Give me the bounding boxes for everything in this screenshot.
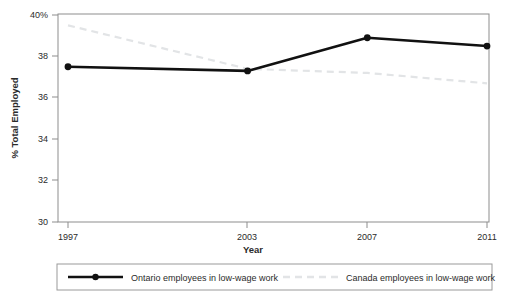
data-point-marker [484, 43, 491, 50]
y-tick-label-40: 40% [30, 10, 48, 20]
y-tick-label-34: 34 [38, 134, 48, 144]
low-wage-work-line-chart: 40% 38 36 34 32 30 % Total Employed 1997… [0, 0, 506, 297]
legend-label-canada: Canada employees in low-wage work [346, 273, 496, 283]
y-tick-label-38: 38 [38, 51, 48, 61]
data-point-marker [244, 67, 251, 74]
x-tick-label-2011: 2011 [477, 232, 496, 242]
y-axis-title: % Total Employed [9, 77, 20, 158]
data-point-marker [364, 34, 371, 41]
x-tick-label-1997: 1997 [58, 232, 78, 242]
chart-figure: 40% 38 36 34 32 30 % Total Employed 1997… [0, 0, 506, 297]
legend-swatch-ontario-marker [92, 274, 98, 280]
y-tick-label-36: 36 [38, 92, 48, 102]
y-tick-label-30: 30 [38, 217, 48, 227]
x-axis-title: Year [243, 244, 263, 255]
y-tick-label-32: 32 [38, 175, 48, 185]
x-tick-label-2003: 2003 [237, 232, 257, 242]
data-point-marker [65, 63, 72, 70]
x-tick-label-2007: 2007 [357, 232, 377, 242]
legend-label-ontario: Ontario employees in low-wage work [131, 273, 279, 283]
